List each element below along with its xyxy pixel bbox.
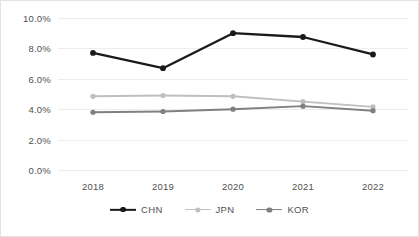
data-point bbox=[230, 30, 236, 36]
x-axis-tick-label: 2018 bbox=[82, 181, 104, 192]
legend-label: KOR bbox=[287, 204, 309, 215]
x-axis-tick-label: 2022 bbox=[362, 181, 384, 192]
series-layer bbox=[58, 18, 408, 170]
data-point bbox=[160, 65, 166, 71]
series-chn bbox=[90, 30, 376, 71]
data-point bbox=[90, 94, 95, 99]
series-kor bbox=[90, 104, 375, 115]
gridline bbox=[58, 170, 408, 171]
line-chart: 0.0%2.0%4.0%6.0%8.0%10.0% 20182019202020… bbox=[0, 0, 419, 237]
y-axis-tick-label: 0.0% bbox=[29, 165, 51, 176]
data-point bbox=[300, 34, 306, 40]
x-axis-tick-label: 2019 bbox=[152, 181, 174, 192]
y-axis-tick-label: 2.0% bbox=[29, 134, 51, 145]
data-point bbox=[160, 109, 165, 114]
data-point bbox=[300, 99, 305, 104]
data-point bbox=[160, 93, 165, 98]
y-axis-tick-label: 8.0% bbox=[29, 43, 51, 54]
x-axis-tick-label: 2021 bbox=[292, 181, 314, 192]
legend-item-kor[interactable]: KOR bbox=[256, 204, 309, 215]
data-point bbox=[230, 107, 235, 112]
x-axis-tick-label: 2020 bbox=[222, 181, 244, 192]
legend-swatch-icon bbox=[256, 205, 282, 215]
series-line bbox=[93, 33, 373, 68]
y-axis-tick-label: 4.0% bbox=[29, 104, 51, 115]
plot-area: 0.0%2.0%4.0%6.0%8.0%10.0% 20182019202020… bbox=[58, 18, 408, 170]
data-point bbox=[370, 52, 376, 58]
legend-label: JPN bbox=[216, 204, 235, 215]
legend-item-chn[interactable]: CHN bbox=[110, 204, 162, 215]
data-point bbox=[90, 50, 96, 56]
y-axis-tick-label: 6.0% bbox=[29, 73, 51, 84]
data-point bbox=[90, 110, 95, 115]
data-point bbox=[370, 108, 375, 113]
legend-swatch-icon bbox=[185, 205, 211, 215]
y-axis-tick-label: 10.0% bbox=[23, 13, 51, 24]
chart-legend: CHNJPNKOR bbox=[1, 204, 418, 215]
data-point bbox=[300, 104, 305, 109]
legend-item-jpn[interactable]: JPN bbox=[185, 204, 235, 215]
legend-swatch-icon bbox=[110, 205, 136, 215]
data-point bbox=[230, 94, 235, 99]
legend-label: CHN bbox=[141, 204, 162, 215]
